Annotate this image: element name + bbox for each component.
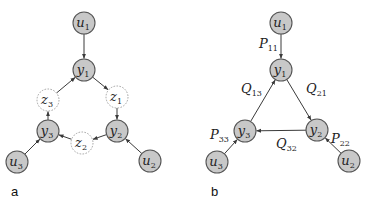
panel-label-a: a — [11, 184, 19, 199]
edge-label-b-P11: P11 — [258, 36, 278, 53]
node-b-u1: u1 — [270, 12, 292, 34]
node-a-u3: u3 — [6, 151, 28, 173]
node-a-z2: z2 — [71, 132, 93, 154]
edge-b-y2-to-y3 — [257, 130, 307, 131]
node-b-u3: u3 — [206, 151, 228, 173]
node-a-u1: u1 — [73, 12, 95, 34]
edge-label-b-P22: P22 — [330, 131, 350, 148]
edge-a-u2-to-y2 — [126, 139, 142, 154]
node-a-y2: y2 — [106, 120, 128, 142]
edge-a-u3-to-y3 — [25, 139, 40, 154]
node-a-z3: z3 — [37, 89, 59, 111]
node-a-z1: z1 — [106, 86, 128, 108]
diagram-canvas: u1y1z3z1y3y2z2u3u2u1y1y3y2u3u2 P11Q21Q32… — [0, 0, 366, 210]
node-b-y1: y1 — [270, 59, 292, 81]
edge-labels-layer: P11Q21Q32Q13P22P33 — [209, 36, 350, 153]
edge-label-b-Q13: Q13 — [241, 81, 262, 98]
edge-b-y3-to-y1 — [251, 80, 276, 122]
edge-a-z2-to-y3 — [59, 135, 72, 140]
node-b-y2: y2 — [306, 119, 328, 141]
edge-a-y1-to-z1 — [93, 77, 109, 90]
edge-label-b-Q32: Q32 — [276, 136, 297, 153]
node-a-y1: y1 — [73, 59, 95, 81]
node-b-u2: u2 — [338, 150, 360, 172]
edge-a-y2-to-z2 — [93, 135, 107, 140]
edge-a-z3-to-y1 — [57, 77, 76, 93]
panel-label-b: b — [211, 184, 218, 199]
node-b-y3: y3 — [234, 120, 256, 142]
edge-label-b-Q21: Q21 — [306, 81, 327, 98]
node-a-y3: y3 — [37, 120, 59, 142]
edge-label-b-P33: P33 — [209, 127, 229, 144]
node-a-u2: u2 — [139, 150, 161, 172]
edges-layer — [25, 34, 341, 154]
